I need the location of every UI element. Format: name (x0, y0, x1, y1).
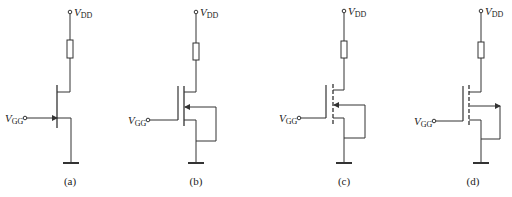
caption-c: (c) (338, 175, 350, 187)
vdd-terminal-d (479, 9, 483, 13)
vdd-label-d: VDD (485, 5, 503, 19)
vgg-terminal-a (23, 116, 27, 120)
caption-a: (a) (64, 175, 76, 187)
panel-c-circuit (297, 9, 365, 163)
drain-resistor-b (193, 43, 199, 60)
circuit-diagram (0, 0, 512, 197)
vdd-terminal-b (194, 10, 198, 14)
vgg-label-c: VGG (279, 112, 297, 126)
caption-b: (b) (190, 175, 203, 187)
vdd-terminal-c (342, 9, 346, 13)
vgg-terminal-b (146, 118, 150, 122)
panel-a-circuit (23, 10, 79, 163)
vdd-terminal-a (68, 10, 72, 14)
vgg-label-b: VGG (128, 114, 146, 128)
vdd-label-a: VDD (74, 6, 92, 20)
drain-resistor-d (478, 42, 484, 58)
vdd-label-c: VDD (348, 5, 366, 19)
caption-d: (d) (467, 175, 480, 187)
vgg-label-a: VGG (5, 112, 23, 126)
vdd-label-b: VDD (200, 6, 218, 20)
vgg-terminal-c (297, 116, 301, 120)
drain-resistor-c (341, 41, 347, 58)
vgg-label-d: VGG (414, 115, 432, 129)
panel-b-circuit (146, 10, 216, 163)
panel-d-circuit (432, 9, 500, 163)
vgg-terminal-d (432, 119, 436, 123)
drain-resistor-a (67, 40, 73, 58)
